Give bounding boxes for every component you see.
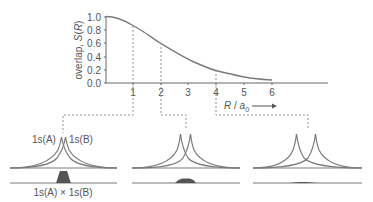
y-tick-label: 0.0 xyxy=(87,78,101,89)
overlap-product-fill xyxy=(56,171,71,183)
overlap-diagram: 1.0 0.8 0.6 0.4 0.2 0.0 1 2 3 4 5 6 over… xyxy=(0,0,373,202)
overlap-chart: 1.0 0.8 0.6 0.4 0.2 0.0 1 2 3 4 5 6 over… xyxy=(63,12,328,133)
product-label: 1s(A) × 1s(B) xyxy=(33,187,92,198)
orbital-a-curve xyxy=(253,134,362,168)
y-tick-label: 0.6 xyxy=(87,38,101,49)
x-tick-label: 1 xyxy=(130,87,136,98)
x-ticks: 1 2 3 4 5 6 xyxy=(130,83,275,98)
orbital-a-curve xyxy=(10,137,117,168)
orbital-b-curve xyxy=(10,137,117,168)
y-tick-label: 0.4 xyxy=(87,52,101,63)
orbital-panel-r2 xyxy=(132,134,240,183)
y-tick-label: 0.2 xyxy=(87,65,101,76)
arrow-right-icon xyxy=(252,104,277,109)
orbital-b-curve xyxy=(253,134,362,168)
y-ticks: 1.0 0.8 0.6 0.4 0.2 0.0 xyxy=(87,12,106,89)
y-tick-label: 0.8 xyxy=(87,25,101,36)
x-tick-label: 4 xyxy=(213,87,219,98)
x-tick-label: 5 xyxy=(241,87,247,98)
orbital-panel-r4 xyxy=(253,134,362,183)
x-tick-label: 3 xyxy=(185,87,191,98)
y-tick-label: 1.0 xyxy=(87,12,101,23)
orbital-b-curve xyxy=(132,134,240,168)
x-tick-label: 6 xyxy=(269,87,275,98)
overlap-curve xyxy=(106,17,272,81)
y-axis-label: overlap, S(R) xyxy=(73,21,84,80)
x-axis-label: R / a0 xyxy=(224,100,249,113)
overlap-product-fill xyxy=(175,179,196,184)
orbital-panel-r1: 1s(A) 1s(B) 1s(A) × 1s(B) xyxy=(10,134,117,198)
orbital-label-a: 1s(A) xyxy=(32,134,56,145)
orbital-label-b: 1s(B) xyxy=(69,134,93,145)
